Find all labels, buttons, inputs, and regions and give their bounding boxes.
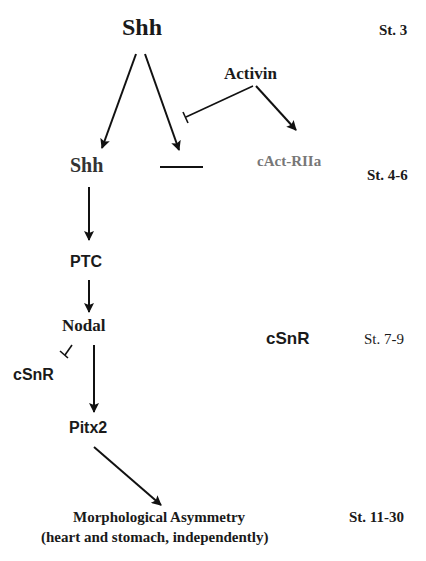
node-shh-mid: Shh (70, 154, 103, 177)
arrow-pitx2-to-morph (94, 447, 161, 505)
arrow-shh-to-shh (102, 54, 136, 148)
inhibit-activin-to-shh (186, 86, 253, 117)
arrow-activin-to-cact (256, 86, 296, 130)
node-morph-detail: (heart and stomach, independently) (41, 529, 269, 546)
node-shh-top: Shh (122, 14, 162, 41)
node-pitx2: Pitx2 (69, 419, 107, 437)
stage-st11-30: St. 11-30 (349, 509, 404, 526)
pathway-arrows (0, 0, 426, 561)
inhibit-nodal-to-csnr (65, 345, 72, 355)
stage-st7-9: St. 7-9 (364, 331, 404, 348)
node-morph-asymmetry: Morphological Asymmetry (73, 509, 245, 526)
arrow-shh-to-blank (145, 54, 179, 150)
node-ptc: PTC (70, 253, 102, 271)
node-cact-riia: cAct-RIIa (257, 153, 321, 170)
node-nodal: Nodal (62, 316, 105, 336)
stage-st3: St. 3 (379, 22, 407, 39)
node-csnr-left: cSnR (13, 366, 54, 384)
node-csnr-right: cSnR (266, 329, 309, 349)
stage-st4-6: St. 4-6 (367, 167, 408, 184)
node-activin: Activin (224, 64, 277, 84)
